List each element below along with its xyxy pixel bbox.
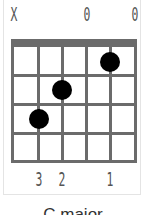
string-line — [37, 39, 40, 163]
fret-line — [11, 103, 137, 106]
fret-line — [11, 160, 137, 163]
finger-dot — [100, 52, 120, 72]
chord-name: C major — [0, 205, 146, 215]
finger-dot — [52, 80, 72, 100]
finger-number: 2 — [58, 168, 65, 190]
chord-diagram-card — [3, 0, 141, 195]
fret-line — [11, 132, 137, 135]
nut — [11, 39, 137, 47]
string-mark-open: 0 — [131, 3, 138, 25]
string-mark-open: 0 — [83, 3, 90, 25]
finger-number: 1 — [106, 168, 113, 190]
finger-number: 3 — [35, 168, 42, 190]
string-mark-muted: X — [10, 3, 17, 25]
string-line — [11, 39, 14, 163]
string-line — [61, 39, 64, 163]
finger-dot — [29, 109, 49, 129]
string-line — [134, 39, 137, 163]
string-line — [85, 39, 88, 163]
fret-line — [11, 74, 137, 77]
